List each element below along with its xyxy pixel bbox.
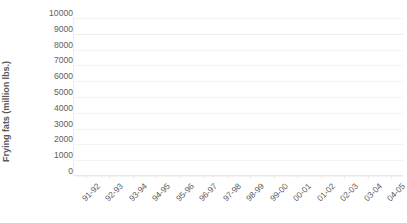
x-axis-tick-mark — [250, 176, 251, 179]
x-axis-tick-label: 99-00 — [268, 181, 290, 203]
gridline — [74, 160, 403, 161]
gridline — [74, 34, 403, 35]
y-axis-tick-label: 5000 — [26, 87, 73, 97]
x-axis-tick-mark — [180, 176, 181, 179]
y-axis-tick-label: 0 — [26, 166, 73, 176]
y-axis-tick-label: 2000 — [26, 134, 73, 144]
y-axis-title: Frying fats (million lbs.) — [0, 0, 26, 223]
x-axis-tick-mark — [274, 176, 275, 179]
gridline — [74, 129, 403, 130]
x-axis-tick-mark — [368, 176, 369, 179]
gridline — [74, 81, 403, 82]
x-axis-tick-label: 98-99 — [244, 181, 266, 203]
x-axis-tick-mark — [227, 176, 228, 179]
x-axis-tick-label: 04-05 — [385, 181, 407, 203]
x-axis-tick-mark — [344, 176, 345, 179]
x-axis-tick-mark — [203, 176, 204, 179]
gridline — [74, 176, 403, 177]
plot-area — [74, 18, 403, 176]
x-axis-line — [74, 175, 403, 176]
y-axis-tick-label: 6000 — [26, 71, 73, 81]
x-axis-tick-mark — [86, 176, 87, 179]
y-axis-tick-label: 9000 — [26, 24, 73, 34]
y-axis-tick-label: 10000 — [26, 8, 73, 18]
y-axis-tick-label: 1000 — [26, 150, 73, 160]
gridline — [74, 50, 403, 51]
y-axis-tick-label: 4000 — [26, 103, 73, 113]
chart-container: Frying fats (million lbs.) 1000090008000… — [0, 0, 407, 223]
y-axis-tick-label: 7000 — [26, 55, 73, 65]
x-axis-tick-label: 97-98 — [221, 181, 243, 203]
x-axis-tick-label: 01-02 — [315, 181, 337, 203]
gridline — [74, 65, 403, 66]
gridline — [74, 113, 403, 114]
gridline — [74, 18, 403, 19]
x-axis-tick-label: 03-04 — [362, 181, 384, 203]
x-axis-tick-mark — [133, 176, 134, 179]
x-axis-tick-label: 94-95 — [150, 181, 172, 203]
x-axis-tick-label: 96-97 — [197, 181, 219, 203]
x-axis-tick-mark — [321, 176, 322, 179]
y-axis-tick-label: 3000 — [26, 119, 73, 129]
y-axis-tick-labels: 1000090008000700060005000400030002000100… — [26, 8, 73, 177]
x-axis-tick-mark — [109, 176, 110, 179]
x-axis-tick-label: 93-94 — [127, 181, 149, 203]
gridline — [74, 97, 403, 98]
x-axis-tick-label: 95-96 — [174, 181, 196, 203]
x-axis-tick-mark — [391, 176, 392, 179]
x-axis-tick-label: 92-93 — [103, 181, 125, 203]
x-axis-tick-label: 02-03 — [338, 181, 360, 203]
x-axis-tick-mark — [297, 176, 298, 179]
x-axis-tick-label: 91-92 — [80, 181, 102, 203]
y-axis-tick-label: 8000 — [26, 40, 73, 50]
x-axis-tick-mark — [156, 176, 157, 179]
gridline — [74, 144, 403, 145]
x-axis-tick-label: 00-01 — [291, 181, 313, 203]
